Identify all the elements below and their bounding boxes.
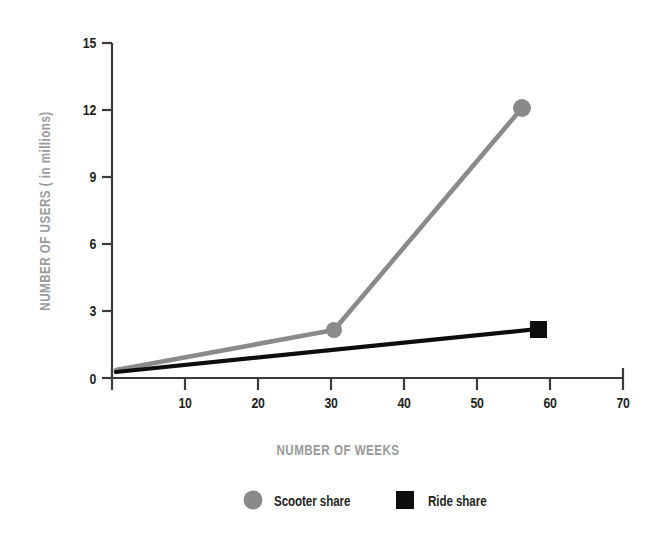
y-tick-label-9: 9 (89, 169, 96, 185)
x-tick-label-70: 70 (616, 395, 630, 411)
x-tick-label-50: 50 (470, 395, 484, 411)
legend-circle-icon (244, 491, 263, 510)
y-tick-label-6: 6 (89, 236, 96, 252)
y-axis-title-text: NUMBER OF USERS ( in millions) (37, 111, 54, 310)
scooter-share-endpoint-marker (513, 99, 531, 117)
y-tick-label-15: 15 (83, 35, 97, 51)
y-tick-label-3: 3 (89, 303, 96, 319)
legend-label-ride-share: Ride share (428, 493, 487, 509)
legend-item-ride-share[interactable]: Ride share (396, 491, 487, 509)
ride-share-endpoint-marker (530, 321, 547, 338)
x-tick-label-20: 20 (251, 395, 265, 411)
y-axis-title: NUMBER OF USERS ( in millions) (37, 111, 54, 310)
y-tick-label-12: 12 (83, 102, 97, 118)
chart-canvas: 15 12 9 6 3 0 NUMBER OF USERS ( in milli… (0, 0, 658, 534)
x-tick-label-10: 10 (178, 395, 192, 411)
legend-label-scooter-share: Scooter share (274, 493, 350, 509)
y-tick-label-0: 0 (89, 371, 96, 387)
x-tick-label-30: 30 (324, 395, 338, 411)
legend-square-icon (396, 491, 414, 509)
scooter-share-point-marker (326, 322, 342, 338)
legend-item-scooter-share[interactable]: Scooter share (244, 491, 351, 510)
line-chart: 15 12 9 6 3 0 NUMBER OF USERS ( in milli… (0, 0, 658, 534)
x-tick-label-60: 60 (543, 395, 557, 411)
x-axis-title-text: NUMBER OF WEEKS (276, 442, 399, 459)
x-tick-label-40: 40 (397, 395, 411, 411)
